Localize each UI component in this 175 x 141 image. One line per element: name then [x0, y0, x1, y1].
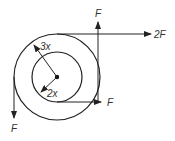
wheel-axle-diagram: 3x 2x F F 2F F [0, 0, 175, 141]
force-top-right-label: 2F [153, 29, 167, 40]
force-left-down-label: F [11, 123, 18, 134]
outer-radius-label: 3x [40, 41, 52, 52]
inner-radius-label: 2x [46, 88, 59, 99]
force-bottom-right-label: F [107, 97, 114, 108]
force-top-up-label: F [95, 8, 102, 19]
